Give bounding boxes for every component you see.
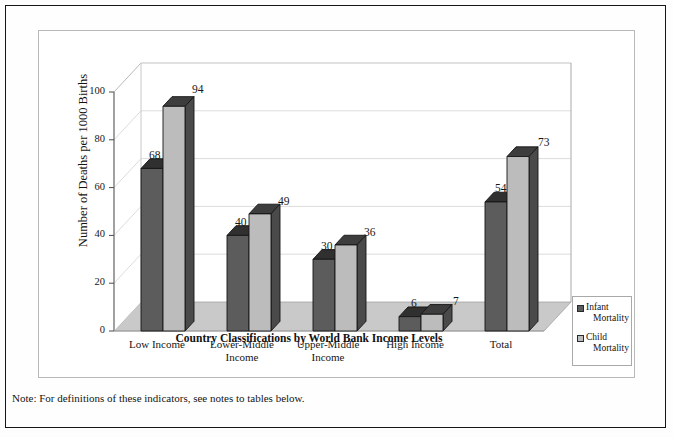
legend-swatch-icon-child: [577, 335, 584, 342]
value-label-infant-1: 40: [235, 216, 247, 228]
legend-swatch-icon-infant: [577, 305, 584, 312]
bar-infant-3-front[interactable]: [399, 317, 421, 331]
legend-label-child: Child Mortality: [586, 332, 629, 354]
legend-label-child-line1: Child: [586, 332, 607, 342]
chart-page: 0 20 40 60 80 100 Number of Deaths per 1…: [0, 0, 673, 437]
value-label-infant-2: 30: [321, 240, 333, 252]
legend-item-child[interactable]: Child Mortality: [577, 332, 628, 354]
legend-item-infant[interactable]: Infant Mortality: [577, 302, 628, 324]
bar-child-2-front[interactable]: [335, 245, 357, 331]
x-axis-title: Country Classifications by World Bank In…: [99, 332, 519, 344]
bar-infant-2-front[interactable]: [313, 259, 335, 331]
bar-child-0-front[interactable]: [163, 106, 185, 331]
bar-child-1-front[interactable]: [249, 214, 271, 331]
value-label-child-1: 49: [278, 195, 290, 207]
value-label-child-2: 36: [364, 226, 376, 238]
y-axis-title: Number of Deaths per 1000 Births: [76, 71, 91, 251]
bar-child-2-side[interactable]: [357, 235, 366, 331]
legend-label-infant-line1: Infant: [586, 302, 609, 312]
legend-label-infant: Infant Mortality: [586, 302, 629, 324]
xcat-line-2-2: Income: [280, 351, 376, 364]
plot-area: 0 20 40 60 80 100 Number of Deaths per 1…: [39, 31, 636, 379]
bar-infant-1-front[interactable]: [227, 235, 249, 331]
value-label-child-0: 94: [192, 83, 204, 95]
value-label-infant-3: 6: [411, 297, 417, 309]
bar-child-1-side[interactable]: [271, 204, 280, 331]
value-label-child-3: 7: [453, 295, 459, 307]
bar-child-3-front[interactable]: [421, 314, 443, 331]
chart-3d-scene: [39, 31, 636, 379]
bar-child-0-side[interactable]: [185, 97, 194, 331]
legend-label-child-line2: Mortality: [593, 343, 629, 354]
bar-infant-4-front[interactable]: [485, 202, 507, 331]
value-label-infant-0: 68: [149, 149, 161, 161]
bar-child-4-front[interactable]: [507, 157, 529, 331]
chart-frame: 0 20 40 60 80 100 Number of Deaths per 1…: [38, 30, 635, 378]
chart-legend: Infant Mortality Child Mortality: [572, 296, 632, 366]
value-label-child-4: 73: [538, 136, 550, 148]
bar-child-4-side[interactable]: [529, 147, 538, 331]
figure-note: Note: For definitions of these indicator…: [12, 392, 305, 404]
xcat-line-1-2: Income: [194, 351, 290, 364]
value-label-infant-4: 54: [495, 182, 507, 194]
legend-label-infant-line2: Mortality: [593, 313, 629, 324]
left-wall: [114, 63, 141, 331]
bar-infant-0-front[interactable]: [141, 168, 163, 331]
ytick-label-20: 20: [73, 276, 105, 287]
